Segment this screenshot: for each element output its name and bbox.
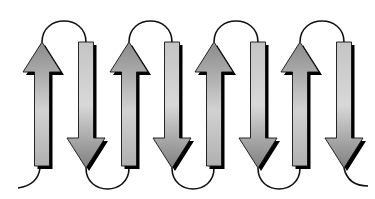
strand-8-down-arrow-icon [325,42,366,171]
loop [129,21,172,42]
strand-7-up-arrow-icon [281,42,322,169]
strand-4-down-arrow-icon [153,42,194,171]
loop [214,21,258,42]
strand-5-up-arrow-icon [195,42,236,169]
loop [86,168,129,189]
loop-n-terminus [18,168,40,188]
strand-2-down-arrow-icon [67,42,108,171]
strand-6-down-arrow-icon [239,42,280,171]
loop [172,168,214,189]
loop-c-terminus [344,168,368,186]
strand-3-up-arrow-icon [110,42,151,169]
strand-1-up-arrow-icon [23,42,64,169]
loops [18,21,368,189]
loop [42,21,86,42]
loop [258,168,300,189]
beta-sheet-diagram [0,0,375,199]
strands [23,42,366,171]
loop [300,21,344,42]
